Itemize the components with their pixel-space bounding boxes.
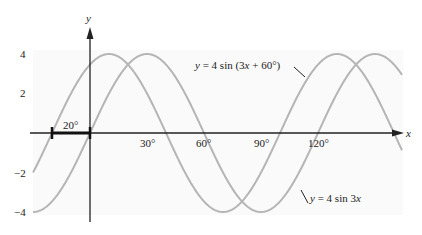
x-tick-30: 30° <box>140 137 155 149</box>
curve2-label: y = 4 sin 3x <box>309 192 361 204</box>
y-tick-neg4: −4 <box>14 206 26 218</box>
curve1-label: y = 4 sin (3x + 60°) <box>194 59 281 72</box>
y-axis-arrow-icon <box>87 27 94 39</box>
y-tick-2: 2 <box>20 87 26 99</box>
y-tick-neg2: −2 <box>14 167 26 179</box>
y-tick-4: 4 <box>20 48 26 60</box>
chart: y x 30° 60° 90° 120° 4 2 −2 −4 20° y = 4… <box>0 0 422 235</box>
x-tick-60: 60° <box>196 137 211 149</box>
x-axis-label: x <box>405 127 411 139</box>
shift-label: 20° <box>63 119 78 131</box>
x-tick-120: 120° <box>308 137 329 149</box>
x-tick-90: 90° <box>254 137 269 149</box>
plot-area: y x 30° 60° 90° 120° 4 2 −2 −4 20° y = 4… <box>0 0 422 235</box>
y-axis-label: y <box>85 12 91 24</box>
